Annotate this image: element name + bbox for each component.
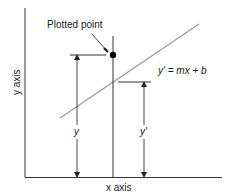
y-prime-measure-label: y' <box>139 126 148 137</box>
y-measure <box>70 55 106 175</box>
regression-diagram: Plotted point y' = mx + b y y' x axis y … <box>0 0 226 196</box>
leader-arrowhead <box>104 48 108 52</box>
x-axis-label: x axis <box>106 182 132 193</box>
y-axis-label: y axis <box>11 69 22 95</box>
y-measure-label: y <box>73 126 80 137</box>
equation-label: y' = mx + b <box>157 65 207 76</box>
plotted-point-label: Plotted point <box>47 19 103 30</box>
axes <box>25 8 222 178</box>
plotted-point <box>110 52 116 58</box>
